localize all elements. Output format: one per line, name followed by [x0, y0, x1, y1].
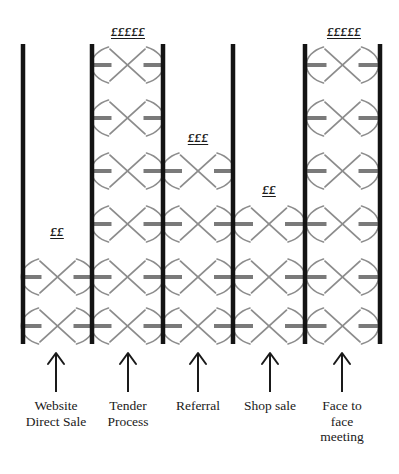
rung-shop-sale-4: [233, 206, 305, 242]
rung-referral-6: [162, 308, 234, 344]
arrows-layer: [48, 353, 350, 392]
rung-tender-process-2: [91, 100, 163, 136]
channel-label-face-to-face-meeting: Face to face meeting: [320, 398, 364, 445]
channel-label-shop-sale: Shop sale: [244, 398, 296, 414]
arrow-tender-process: [120, 353, 136, 392]
price-tier-label-tender-process: £££££: [111, 24, 145, 40]
rung-tender-process-5: [91, 259, 163, 295]
rung-tender-process-1: [91, 47, 163, 83]
rung-shop-sale-5: [233, 259, 305, 295]
rails-layer: [23, 44, 380, 344]
channel-label-website-direct-sale: Website Direct Sale: [26, 398, 86, 429]
rungs-layer: [21, 47, 380, 344]
rung-referral-4: [162, 206, 234, 242]
arrow-referral: [190, 353, 206, 392]
rung-face-to-face-meeting-3: [305, 153, 380, 189]
price-tier-label-face-to-face-meeting: £££££: [327, 24, 361, 40]
rung-tender-process-4: [91, 206, 163, 242]
rung-face-to-face-meeting-5: [305, 259, 380, 295]
rung-face-to-face-meeting-1: [305, 47, 380, 83]
rung-face-to-face-meeting-2: [305, 100, 380, 136]
price-tier-label-referral: £££: [188, 130, 208, 146]
arrow-website-direct-sale: [48, 353, 64, 392]
rung-referral-5: [162, 259, 234, 295]
rung-shop-sale-6: [233, 308, 305, 344]
rung-tender-process-3: [91, 153, 163, 189]
rung-tender-process-6: [91, 308, 163, 344]
arrow-face-to-face-meeting: [334, 353, 350, 392]
rung-website-direct-sale-6: [21, 308, 93, 344]
price-tier-label-shop-sale: ££: [262, 182, 276, 198]
channel-label-tender-process: Tender Process: [107, 398, 148, 429]
rung-face-to-face-meeting-6: [305, 308, 380, 344]
rung-face-to-face-meeting-4: [305, 206, 380, 242]
price-tier-label-website-direct-sale: ££: [50, 224, 64, 240]
diagram-canvas: £££££££££££££££££ Website Direct SaleTen…: [0, 0, 399, 474]
arrow-shop-sale: [262, 353, 278, 392]
channel-label-referral: Referral: [176, 398, 220, 414]
rung-referral-3: [162, 153, 234, 189]
rung-website-direct-sale-5: [21, 259, 93, 295]
